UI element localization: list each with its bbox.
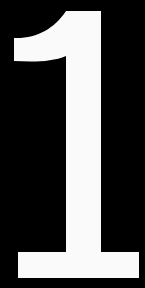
numeral-one-glyph (0, 0, 145, 288)
screenshot-canvas: 1 (0, 0, 145, 288)
